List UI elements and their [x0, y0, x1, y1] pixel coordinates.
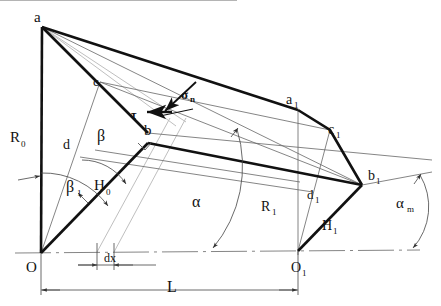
arc-alpha-m: [413, 175, 429, 248]
label-R0: R: [10, 129, 20, 145]
edge-a-a1: [42, 27, 298, 110]
diagram-canvas: a c b O a 1 c 1 b 1 O 1 R: [0, 0, 441, 306]
label-c1-sub: 1: [336, 130, 341, 140]
edge-b-b1: [148, 143, 362, 185]
label-R0-group: R 0: [10, 129, 26, 149]
label-R1: R: [261, 199, 271, 214]
label-alpha-m-group: α m: [396, 195, 414, 214]
b-upper-extension: [148, 133, 432, 160]
centerline-O-O1: [15, 250, 420, 253]
label-b1: b: [368, 168, 375, 183]
label-b1-sub: 1: [376, 176, 381, 186]
diagram-svg: a c b O a 1 c 1 b 1 O 1 R: [0, 0, 441, 306]
label-c1: c: [328, 122, 334, 137]
edge-a-O-R0: [41, 27, 42, 253]
dx-sweep-line-right: [114, 118, 186, 252]
label-alpha-m: α: [396, 195, 404, 211]
label-tau: τ: [131, 108, 137, 122]
label-O1-sub: 1: [302, 268, 307, 278]
label-R0-sub: 0: [21, 139, 26, 149]
label-R1-group: R 1: [261, 199, 277, 217]
label-b: b: [144, 122, 152, 138]
label-d1-sub: 1: [315, 195, 320, 205]
arc-alpha: [213, 129, 243, 248]
label-d1: d: [307, 187, 314, 202]
label-sigma-n: σ: [181, 87, 188, 102]
label-sigma-n-group: σ n: [181, 87, 195, 104]
primary-outline: [41, 27, 362, 253]
label-sigma-n-sub: n: [190, 94, 195, 104]
label-O: O: [26, 259, 37, 275]
label-a: a: [34, 9, 41, 25]
label-beta1: β: [66, 178, 74, 196]
edge-d-d1: [80, 157, 313, 192]
fan-line-a-2: [42, 27, 186, 122]
label-dx: dx: [104, 251, 116, 265]
greek-labels: β β 1 α α m σ n τ: [66, 87, 414, 214]
label-H0-group: H 0: [94, 177, 111, 197]
label-H1: H: [322, 218, 332, 233]
label-H0: H: [94, 177, 105, 193]
edge-O-c-thin: [41, 82, 100, 253]
label-beta: β: [97, 127, 105, 145]
label-d: d: [63, 137, 70, 152]
label-beta1-sub: 1: [77, 188, 82, 198]
label-O1-group: O 1: [291, 260, 307, 278]
label-H1-group: H 1: [322, 218, 338, 236]
measure-labels: R 0 R 1 H 0 H 1 d d 1 L dx: [10, 129, 338, 295]
label-d1-group: d 1: [307, 187, 320, 205]
edge-a-b1-thin: [42, 27, 362, 185]
label-a1: a: [286, 92, 293, 107]
edge-c-b1-thin: [100, 82, 362, 185]
arc-beta1-pointer: [18, 176, 40, 180]
label-R1-sub: 1: [272, 207, 277, 217]
label-alpha-m-sub: m: [407, 204, 414, 214]
label-O1: O: [291, 260, 301, 275]
label-a1-sub: 1: [294, 100, 299, 110]
label-beta1-group: β 1: [66, 178, 82, 198]
label-L: L: [167, 278, 177, 295]
angle-arcs: [0, 0, 429, 248]
label-alpha: α: [192, 193, 201, 210]
label-H0-sub: 0: [106, 187, 111, 197]
label-c: c: [93, 74, 99, 89]
label-H1-sub: 1: [333, 226, 338, 236]
